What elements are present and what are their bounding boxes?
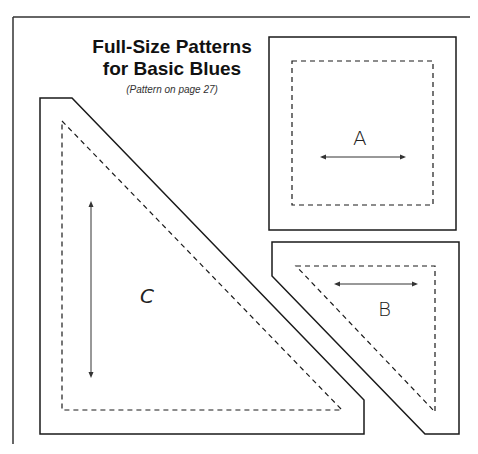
piece-a-grain-arrow-icon [320, 155, 406, 160]
piece-b-grain-arrow-icon [334, 282, 418, 287]
piece-a-label: A [353, 126, 367, 150]
piece-b-seam-line [296, 266, 435, 412]
pattern-page: Full-Size Patterns for Basic Blues (Patt… [0, 0, 478, 454]
page-subtitle: (Pattern on page 27) [82, 84, 262, 95]
title-line-2: for Basic Blues [82, 58, 262, 80]
piece-b-label: B [378, 297, 391, 321]
page-title: Full-Size Patterns for Basic Blues [82, 36, 262, 80]
title-line-1: Full-Size Patterns [82, 36, 262, 58]
piece-c-label: C [140, 284, 154, 308]
piece-c-grain-arrow-icon [89, 201, 94, 378]
piece-b [272, 242, 459, 434]
